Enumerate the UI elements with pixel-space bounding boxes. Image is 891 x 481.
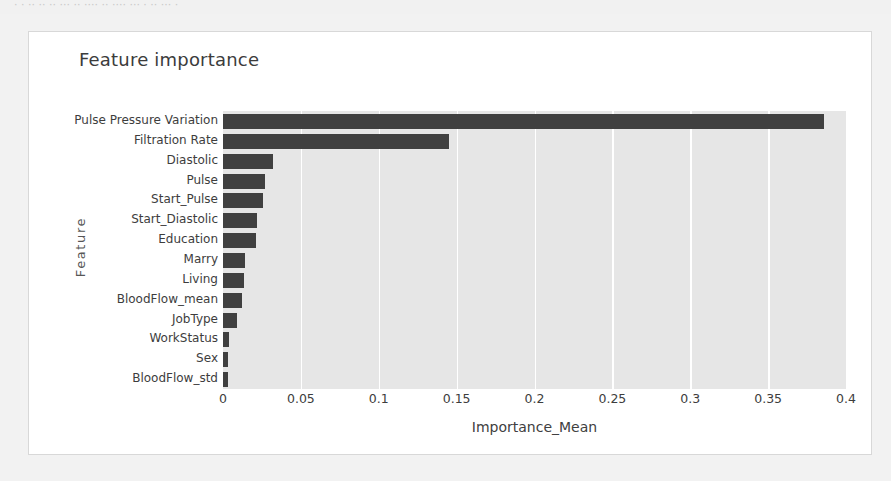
x-axis-tick-label: 0.1: [369, 391, 389, 406]
y-axis-tick-label: BloodFlow_mean: [117, 290, 218, 310]
bar: [223, 293, 242, 308]
x-axis-tick-label: 0: [219, 391, 227, 406]
bar: [223, 114, 824, 129]
x-axis-tick-labels: 00.050.10.150.20.250.30.350.4: [223, 391, 846, 411]
bar: [223, 332, 229, 347]
chart-card: Feature importance Feature Pulse Pressur…: [28, 31, 872, 455]
bar: [223, 273, 244, 288]
bar: [223, 233, 256, 248]
y-axis-tick-label: WorkStatus: [149, 329, 218, 349]
bar: [223, 372, 228, 387]
bar: [223, 134, 449, 149]
y-axis-tick-label: JobType: [172, 310, 218, 330]
gridline: [846, 111, 848, 389]
y-axis-tick-label: BloodFlow_std: [132, 369, 218, 389]
bar: [223, 352, 228, 367]
y-axis-tick-label: Diastolic: [167, 151, 219, 171]
y-axis-tick-label: Living: [182, 270, 218, 290]
bar: [223, 313, 237, 328]
x-axis-tick-label: 0.05: [287, 391, 315, 406]
bar: [223, 193, 263, 208]
x-axis-tick-label: 0.2: [525, 391, 545, 406]
x-axis-tick-label: 0.3: [680, 391, 700, 406]
cropped-top-text: · · ·· ·· ·· ··· ·· ···· ·· ···· ··· · ·…: [0, 0, 891, 14]
x-axis-tick-label: 0.15: [443, 391, 471, 406]
bar: [223, 253, 245, 268]
y-axis-tick-label: Filtration Rate: [134, 131, 218, 151]
bar: [223, 154, 273, 169]
chart-title: Feature importance: [79, 49, 259, 70]
x-axis-tick-label: 0.25: [598, 391, 626, 406]
x-axis-tick-label: 0.4: [836, 391, 856, 406]
x-axis-title: Importance_Mean: [223, 419, 846, 435]
y-axis-tick-label: Sex: [196, 349, 218, 369]
plot-area: [223, 111, 846, 389]
y-axis-tick-label: Pulse Pressure Variation: [74, 111, 218, 131]
x-axis-tick-label: 0.35: [754, 391, 782, 406]
bar: [223, 174, 265, 189]
y-axis-tick-label: Pulse: [186, 171, 218, 191]
y-axis-tick-label: Start_Pulse: [151, 190, 218, 210]
y-axis-tick-label: Start_Diastolic: [131, 210, 218, 230]
y-axis-tick-labels: Pulse Pressure VariationFiltration RateD…: [29, 111, 221, 389]
y-axis-tick-label: Marry: [184, 250, 218, 270]
bars-layer: [223, 111, 846, 389]
bar: [223, 213, 257, 228]
y-axis-tick-label: Education: [158, 230, 218, 250]
